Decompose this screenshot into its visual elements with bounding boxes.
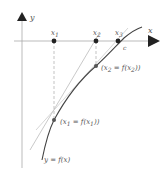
label-curve-point-x1: (x1 = f(x1)) bbox=[60, 118, 100, 127]
x-axis-arrow-icon bbox=[148, 35, 160, 47]
label-curve-point-x2: (x2 = f(x2)) bbox=[101, 64, 141, 73]
point-x2 bbox=[94, 39, 99, 44]
y-axis-arrow-icon bbox=[17, 12, 27, 21]
label-x2: x2 bbox=[93, 29, 101, 38]
newton-method-diagram: y x x1 x2 x3 c (x2 = f(x2)) (x1 = f(x1))… bbox=[0, 0, 160, 175]
label-x3: x3 bbox=[115, 29, 123, 38]
label-x1: x1 bbox=[51, 29, 59, 38]
point-on-curve-x1 bbox=[52, 118, 56, 122]
point-on-curve-x2 bbox=[94, 64, 98, 68]
y-axis-label: y bbox=[29, 13, 35, 22]
point-x1 bbox=[52, 39, 57, 44]
root-label: c bbox=[123, 44, 127, 51]
point-x3 bbox=[116, 39, 121, 44]
tangent-line-at-x1 bbox=[30, 32, 100, 150]
function-curve bbox=[42, 27, 142, 160]
x-axis-label: x bbox=[148, 26, 153, 35]
curve-label: y = f(x) bbox=[43, 156, 71, 164]
